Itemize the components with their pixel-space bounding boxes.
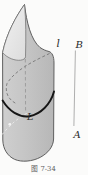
label-b: B xyxy=(75,39,83,50)
figure-caption: 图 7-34 xyxy=(31,165,55,173)
figure-container: l B A L 图 7-34 xyxy=(0,0,88,175)
label-curve-l: L xyxy=(26,111,33,122)
label-l: l xyxy=(57,37,60,49)
highlight-dot xyxy=(8,123,11,126)
cylinder-figure: l B A L 图 7-34 xyxy=(0,0,88,175)
label-a: A xyxy=(73,129,81,140)
